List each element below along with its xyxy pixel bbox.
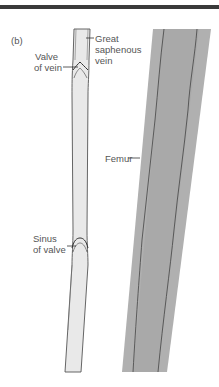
femur-shape <box>122 29 211 372</box>
panel-label: (b) <box>11 35 23 46</box>
label-femur: Femur <box>105 153 132 164</box>
label-valve-of-vein: Valve of vein <box>34 51 62 73</box>
label-great-saphenous-vein: Great saphenous vein <box>95 33 141 66</box>
great-saphenous-vein-shape <box>65 29 90 372</box>
label-sinus-of-valve: Sinus of valve <box>33 233 66 255</box>
